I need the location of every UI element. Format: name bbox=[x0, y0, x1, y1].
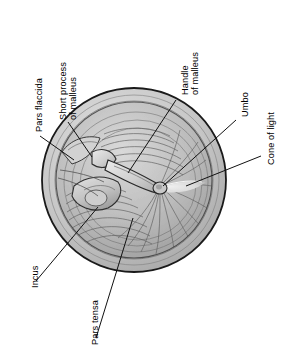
label-short-process-malleus-line-1: Short process bbox=[58, 62, 68, 120]
label-short-process-malleus-line-2: of malleus bbox=[68, 62, 78, 120]
incus bbox=[72, 177, 121, 210]
label-pars-flaccida: Pars flaccida bbox=[34, 78, 44, 132]
label-umbo: Umbo bbox=[240, 92, 250, 117]
label-handle-of-malleus-line-1: Handle bbox=[180, 52, 190, 95]
label-pars-tensa-line-1: Pars tensa bbox=[90, 300, 100, 345]
label-handle-of-malleus-line-2: of malleus bbox=[190, 52, 200, 95]
label-umbo-line-1: Umbo bbox=[240, 92, 250, 117]
tympanic-membrane bbox=[56, 102, 212, 258]
eardrum-illustration bbox=[0, 0, 282, 357]
label-handle-of-malleus: Handleof malleus bbox=[180, 52, 201, 95]
label-pars-flaccida-line-1: Pars flaccida bbox=[34, 78, 44, 132]
tympanic-membrane-figure: Pars flaccidaShort processof malleusHand… bbox=[0, 0, 282, 357]
label-cone-of-light: Cone of light bbox=[266, 112, 276, 165]
label-incus-line-1: Incus bbox=[30, 266, 40, 288]
label-pars-tensa: Pars tensa bbox=[90, 300, 100, 345]
label-cone-of-light-line-1: Cone of light bbox=[266, 112, 276, 165]
label-short-process-malleus: Short processof malleus bbox=[58, 62, 79, 120]
label-incus: Incus bbox=[30, 266, 40, 288]
